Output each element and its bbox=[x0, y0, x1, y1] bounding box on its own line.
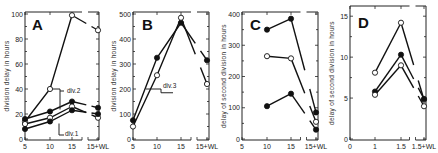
open-circle-marker bbox=[204, 81, 209, 86]
y-tick-label: 80 bbox=[15, 36, 23, 43]
open-circle-marker bbox=[421, 104, 426, 109]
series bbox=[372, 52, 426, 101]
panel-a: 0204060801005101515+WLdivision delay in … bbox=[3, 11, 109, 151]
open-circle-marker bbox=[154, 73, 159, 78]
filled-circle-marker bbox=[154, 55, 159, 60]
open-circle-marker bbox=[288, 56, 293, 61]
filled-circle-marker bbox=[69, 108, 74, 113]
open-circle-marker bbox=[398, 20, 403, 25]
x-tick-label: 1 bbox=[373, 143, 377, 150]
y-tick-label: 400 bbox=[228, 11, 240, 18]
filled-circle-marker bbox=[47, 109, 52, 114]
series-line bbox=[267, 94, 291, 107]
chart-canvas: 0204060801005101515+WLdivision delay in … bbox=[0, 0, 438, 153]
filled-circle-marker bbox=[264, 27, 269, 32]
filled-circle-marker bbox=[204, 58, 209, 63]
open-circle-marker bbox=[130, 124, 135, 129]
series-line bbox=[267, 19, 291, 30]
filled-circle-marker bbox=[47, 119, 52, 124]
y-tick-label: 0 bbox=[19, 136, 23, 143]
filled-circle-marker bbox=[313, 110, 318, 115]
open-circle-marker bbox=[313, 119, 318, 124]
y-tick-label: 100 bbox=[228, 104, 240, 111]
annotation-div3: div.3 bbox=[163, 82, 177, 89]
series bbox=[372, 63, 426, 109]
series-line-break bbox=[181, 18, 195, 54]
filled-circle-marker bbox=[398, 52, 403, 57]
y-tick-label: 10 bbox=[340, 54, 348, 61]
y-axis-label: delay of second division in hours bbox=[328, 21, 336, 125]
panel-c: 01002003004005101515+WLdelay of second d… bbox=[220, 11, 327, 151]
panel-letter: C bbox=[250, 16, 261, 33]
y-tick-label: 200 bbox=[119, 86, 131, 93]
filled-circle-marker bbox=[288, 16, 293, 21]
y-tick-label: 60 bbox=[15, 61, 23, 68]
annotation-div2: div.2 bbox=[67, 87, 81, 94]
y-axis-label: delay of second division in hours bbox=[220, 24, 228, 128]
x-tick-label: 15 bbox=[68, 143, 76, 150]
panel-letter: A bbox=[32, 16, 43, 33]
panel-d: 051015011.51.5+WLdelay of second divisio… bbox=[328, 6, 436, 150]
series-line bbox=[375, 65, 401, 94]
x-tick-label: 0 bbox=[348, 143, 352, 150]
y-tick-label: 15 bbox=[340, 13, 348, 20]
y-tick-label: 300 bbox=[228, 42, 240, 49]
open-circle-marker bbox=[372, 70, 377, 75]
series-line bbox=[267, 56, 291, 58]
filled-circle-marker bbox=[95, 105, 100, 110]
y-tick-label: 100 bbox=[119, 111, 131, 118]
filled-circle-marker bbox=[264, 104, 269, 109]
y-tick-label: 20 bbox=[15, 111, 23, 118]
filled-circle-marker bbox=[22, 116, 27, 121]
filled-circle-marker bbox=[95, 111, 100, 116]
open-circle-marker bbox=[264, 54, 269, 59]
series bbox=[264, 91, 318, 132]
x-tick-label: 15+WL bbox=[87, 143, 109, 150]
series-line-break bbox=[181, 23, 195, 44]
x-tick-label: 15+WL bbox=[196, 143, 218, 150]
annotation-div1: div.1 bbox=[65, 130, 79, 137]
x-tick-label: 10 bbox=[153, 143, 161, 150]
series bbox=[264, 16, 318, 115]
x-tick-label: 15 bbox=[177, 143, 185, 150]
series-line bbox=[133, 23, 181, 121]
x-tick-label: 5 bbox=[240, 143, 244, 150]
x-tick-label: 1.5+WL bbox=[412, 143, 436, 150]
x-tick-label: 5 bbox=[131, 143, 135, 150]
y-axis-label: division delay in hours bbox=[3, 40, 11, 111]
y-tick-label: 300 bbox=[119, 61, 131, 68]
series-line bbox=[375, 23, 401, 73]
open-circle-marker bbox=[372, 92, 377, 97]
x-tick-label: 1.5 bbox=[396, 143, 406, 150]
y-tick-label: 100 bbox=[11, 11, 23, 18]
div1-bracket bbox=[59, 124, 64, 136]
series-line bbox=[133, 18, 181, 127]
filled-circle-marker bbox=[22, 126, 27, 131]
y-tick-label: 400 bbox=[119, 36, 131, 43]
y-tick-label: 0 bbox=[236, 136, 240, 143]
x-tick-label: 15 bbox=[287, 143, 295, 150]
x-tick-label: 5 bbox=[23, 143, 27, 150]
filled-circle-marker bbox=[69, 99, 74, 104]
filled-circle-marker bbox=[421, 96, 426, 101]
open-circle-marker bbox=[69, 13, 74, 18]
open-circle-marker bbox=[95, 28, 100, 33]
panel-letter: D bbox=[358, 14, 369, 31]
y-tick-label: 200 bbox=[228, 73, 240, 80]
open-circle-marker bbox=[178, 15, 183, 20]
filled-circle-marker bbox=[313, 127, 318, 132]
y-tick-label: 500 bbox=[119, 11, 131, 18]
series bbox=[372, 20, 426, 102]
div2-bracket bbox=[53, 89, 60, 110]
filled-circle-marker bbox=[288, 91, 293, 96]
y-axis-label: division delay in hours bbox=[110, 40, 118, 111]
open-circle-marker bbox=[47, 86, 52, 91]
series-line-break bbox=[291, 94, 305, 114]
y-tick-label: 0 bbox=[127, 136, 131, 143]
figure-four-panel-chart: 0204060801005101515+WLdivision delay in … bbox=[0, 0, 438, 153]
open-circle-marker bbox=[22, 121, 27, 126]
open-circle-marker bbox=[398, 63, 403, 68]
x-tick-label: 10 bbox=[263, 143, 271, 150]
y-tick-label: 40 bbox=[15, 86, 23, 93]
y-tick-label: 0 bbox=[344, 136, 348, 143]
